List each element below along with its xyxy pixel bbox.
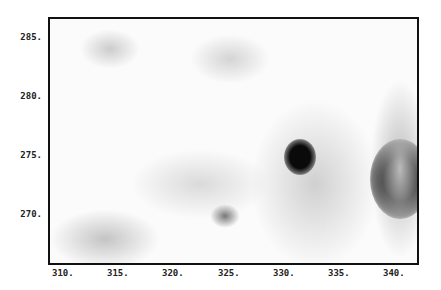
x-tick-label: 330. [273, 268, 295, 278]
x-tick-label: 315. [107, 268, 129, 278]
y-tick-label: 285. [12, 32, 42, 42]
faint-blob [190, 34, 270, 84]
faint-blob [50, 209, 160, 265]
faint-blob [370, 79, 419, 259]
x-tick-label: 310. [52, 268, 74, 278]
faint-blob [80, 29, 140, 69]
y-tick-label: 270. [12, 209, 42, 219]
heatmap-plot-area [48, 17, 419, 265]
faint-blob [130, 149, 270, 219]
x-tick-label: 335. [328, 268, 350, 278]
y-tick-label: 280. [12, 91, 42, 101]
dark-spot [284, 139, 316, 175]
x-tick-label: 325. [218, 268, 240, 278]
faint-blob [250, 99, 380, 265]
y-tick-label: 275. [12, 150, 42, 160]
x-tick-label: 340. [383, 268, 405, 278]
x-tick-label: 320. [162, 268, 184, 278]
medium-blob [210, 204, 240, 228]
